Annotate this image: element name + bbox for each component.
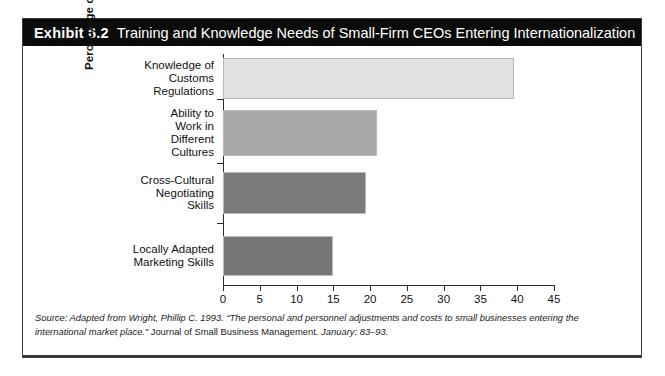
category-label-line: Cross-Cultural (101, 174, 214, 187)
x-axis-tick-label: 0 (208, 293, 238, 305)
category-label: Knowledge of Customs Regulations (101, 59, 223, 97)
x-axis-tick-label: 5 (245, 293, 275, 305)
x-axis-line (223, 285, 554, 286)
exhibit-title: Training and Knowledge Needs of Small-Fi… (117, 25, 636, 41)
category-label-line: Customs (101, 72, 214, 85)
category-label-line: Ability to (101, 107, 214, 120)
bar-track (223, 236, 621, 276)
x-axis-tick-label: 10 (282, 293, 312, 305)
x-axis-tick-label: 35 (465, 293, 495, 305)
x-axis-tick (444, 285, 445, 291)
bar-locally-adapted-marketing-skills (223, 236, 333, 276)
x-axis-tick-label: 25 (392, 293, 422, 305)
category-label-line: Cultures (101, 146, 214, 159)
bar-track (223, 58, 621, 99)
x-axis-tick (260, 285, 261, 291)
category-label-line: Different (101, 133, 214, 146)
x-axis-tick (517, 285, 518, 291)
category-label-line: Work in (101, 120, 214, 133)
category-label-line: Regulations (101, 85, 214, 98)
category-label-line: Skills (101, 199, 214, 212)
x-axis-tick (480, 285, 481, 291)
category-tick (217, 99, 224, 100)
x-axis-tick-label: 30 (429, 293, 459, 305)
category-tick (217, 223, 224, 224)
x-axis-tick-label: 45 (539, 293, 569, 305)
category-label-line: Negotiating (101, 187, 214, 200)
category-label: Locally Adapted Marketing Skills (101, 243, 223, 269)
bar-track (223, 110, 621, 156)
category-label-line: Marketing Skills (101, 256, 214, 269)
category-label-line: Knowledge of (101, 59, 214, 72)
category-label: Ability to Work in Different Cultures (101, 107, 223, 158)
source-citation: Source: Adapted from Wright, Phillip C. … (35, 311, 631, 338)
bar-row: Ability to Work in Different Cultures (101, 110, 621, 156)
exhibit-panel: Exhibit 6.2 Training and Knowledge Needs… (22, 18, 642, 358)
x-axis-tick-label: 20 (355, 293, 385, 305)
x-axis-tick (554, 285, 555, 291)
source-journal: Journal of Small Business Management (151, 326, 316, 337)
bar-knowledge-of-customs-regulations (223, 58, 514, 99)
bar-row: Knowledge of Customs Regulations (101, 58, 621, 99)
bar-track (223, 172, 621, 214)
bar-ability-to-work-in-different-cultures (223, 110, 377, 156)
bar-cross-cultural-negotiating-skills (223, 172, 366, 214)
x-axis-tick (333, 285, 334, 291)
x-axis-tick (223, 285, 224, 291)
x-axis-tick (407, 285, 408, 291)
source-tail: . January: 83–93. (316, 326, 388, 337)
x-axis-tick (370, 285, 371, 291)
x-axis-tick (297, 285, 298, 291)
bar-row: Cross-Cultural Negotiating Skills (101, 172, 621, 214)
x-axis-tick-label: 40 (502, 293, 532, 305)
x-axis-tick-label: 15 (318, 293, 348, 305)
y-axis-title: Percentage of CEOs Identifying Needs for… (83, 0, 101, 70)
category-label: Cross-Cultural Negotiating Skills (101, 174, 223, 212)
bar-row: Locally Adapted Marketing Skills (101, 236, 621, 276)
category-label-line: Locally Adapted (101, 243, 214, 256)
bar-chart: Percentage of CEOs Identifying Needs for… (23, 46, 641, 304)
category-tick (217, 163, 224, 164)
exhibit-title-bar: Exhibit 6.2 Training and Knowledge Needs… (23, 19, 641, 46)
